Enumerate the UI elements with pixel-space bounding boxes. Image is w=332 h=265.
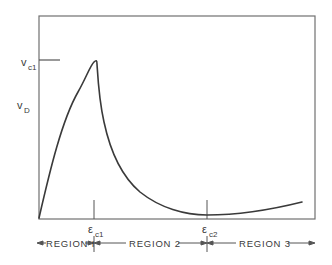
vd-label: v D [17, 99, 30, 115]
response-curve [39, 61, 302, 218]
svg-text:c1: c1 [28, 63, 37, 72]
region-1-label: REGION I [46, 238, 95, 249]
region-3-label: REGION 3 [239, 238, 291, 249]
svg-text:c1: c1 [95, 230, 104, 239]
svg-text:c2: c2 [209, 230, 218, 239]
svg-text:ε: ε [88, 223, 93, 235]
ec2-label: ε c2 [202, 223, 218, 239]
svg-text:ε: ε [202, 223, 207, 235]
diagram-figure: v c1 v D ε c1 ε c2 REGION I [0, 0, 332, 265]
vc1-label: v c1 [21, 56, 37, 72]
region-2-label: REGION 2 [129, 238, 181, 249]
ec1-label: ε c1 [88, 223, 104, 239]
svg-text:v: v [21, 56, 27, 68]
svg-text:D: D [24, 106, 30, 115]
svg-text:v: v [17, 99, 23, 111]
plot-frame [39, 16, 315, 219]
